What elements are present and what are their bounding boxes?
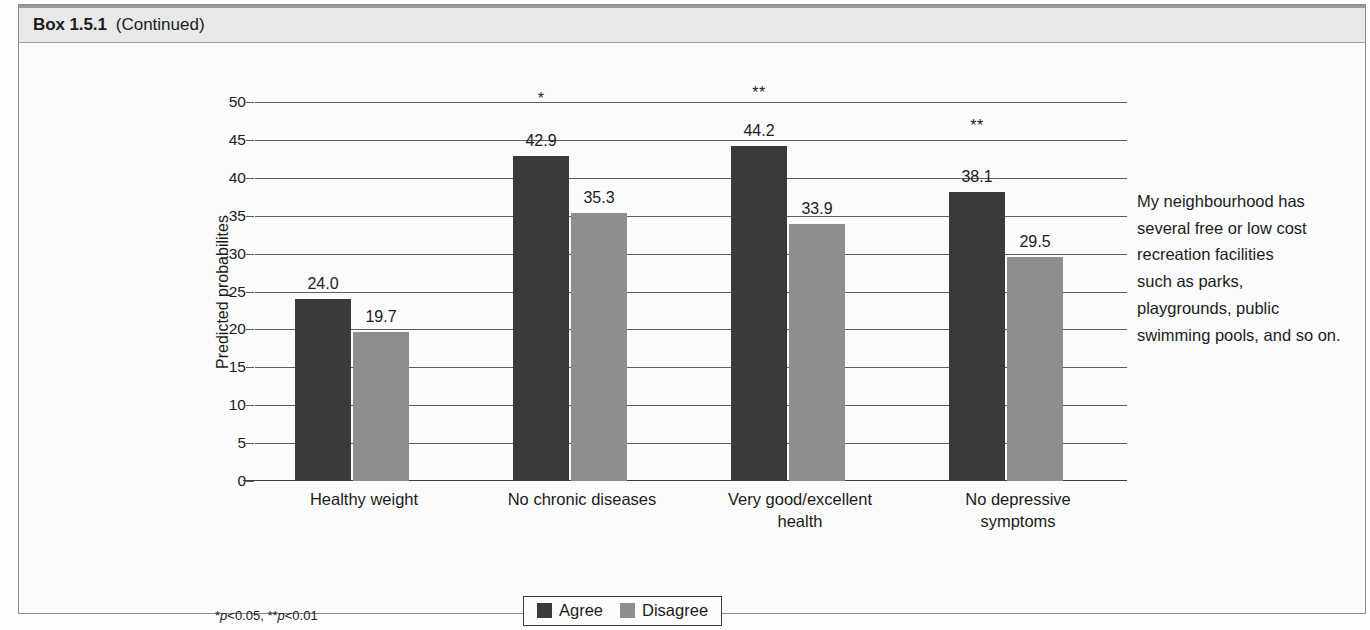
bar-value-label: 24.0 (307, 275, 338, 293)
category-label-line: No chronic diseases (473, 488, 691, 510)
annotation-line: several free or low cost (1137, 215, 1370, 242)
bar-chart-plot: 05101520253035404550 24.019.742.935.3*44… (255, 102, 1127, 481)
bar-value-label: 29.5 (1019, 233, 1050, 251)
box-header: Box 1.5.1 (Continued) (19, 5, 1365, 43)
legend-swatch-icon (537, 603, 552, 618)
bar-value-label: 33.9 (801, 200, 832, 218)
bar-value-label: 44.2 (743, 122, 774, 140)
category-label-line: No depressive (909, 488, 1127, 510)
chart-legend: AgreeDisagree (523, 596, 722, 626)
category-label: No chronic diseases (473, 488, 691, 510)
y-tick-mark (246, 102, 254, 103)
bar-agree-1 (295, 299, 351, 481)
legend-label: Disagree (642, 601, 708, 620)
y-tick-mark (246, 443, 254, 444)
y-tick-mark (246, 367, 254, 368)
chart-annotation: My neighbourhood hasseveral free or low … (1137, 188, 1370, 348)
significance-footnote: *p<0.05, **p<0.01 (215, 608, 318, 623)
bar-disagree-3 (789, 224, 845, 481)
y-tick-mark (246, 254, 254, 255)
annotation-line: such as parks, (1137, 268, 1370, 295)
annotation-line: recreation facilities (1137, 241, 1370, 268)
bar-agree-4 (949, 192, 1005, 481)
box-container: Box 1.5.1 (Continued) Predicted probabil… (18, 4, 1366, 614)
y-tick-label: 0 (237, 472, 246, 490)
category-label-line: symptoms (909, 510, 1127, 532)
footnote-p-2: p (278, 608, 285, 623)
annotation-line: My neighbourhood has (1137, 188, 1370, 215)
bar-disagree-2 (571, 213, 627, 481)
gridline (255, 178, 1127, 179)
bar-disagree-1 (353, 332, 409, 481)
bar-value-label: 35.3 (583, 189, 614, 207)
bar-value-label: 19.7 (365, 308, 396, 326)
bar-agree-2 (513, 156, 569, 481)
annotation-line: playgrounds, public (1137, 295, 1370, 322)
y-tick-label: 25 (229, 283, 246, 301)
gridline (255, 102, 1127, 103)
y-tick-mark (246, 405, 254, 406)
annotation-line: swimming pools, and so on. (1137, 322, 1370, 349)
category-label: Very good/excellenthealth (691, 488, 909, 533)
bar-value-label: 38.1 (961, 168, 992, 186)
y-tick-mark (246, 178, 254, 179)
significance-marker: * (538, 90, 545, 108)
footnote-value-2: <0.01 (285, 608, 318, 623)
bar-agree-3 (731, 146, 787, 481)
y-tick-mark (246, 216, 254, 217)
legend-swatch-icon (620, 603, 635, 618)
gridline (255, 140, 1127, 141)
y-tick-mark (246, 140, 254, 141)
category-label: No depressivesymptoms (909, 488, 1127, 533)
box-title: Box 1.5.1 (19, 15, 107, 35)
y-tick-label: 45 (229, 131, 246, 149)
category-label: Healthy weight (255, 488, 473, 510)
box-continued-label: (Continued) (107, 15, 205, 35)
footnote-star-2: ** (267, 608, 277, 623)
legend-label: Agree (559, 601, 603, 620)
significance-marker: ** (970, 117, 983, 135)
y-tick-label: 40 (229, 169, 246, 187)
significance-marker: ** (752, 84, 765, 102)
y-tick-mark (246, 329, 254, 330)
y-tick-mark (246, 481, 254, 482)
bar-disagree-4 (1007, 257, 1063, 481)
y-tick-label: 20 (229, 320, 246, 338)
y-tick-label: 10 (229, 396, 246, 414)
y-tick-label: 50 (229, 93, 246, 111)
category-label-line: Healthy weight (255, 488, 473, 510)
y-tick-label: 5 (237, 434, 246, 452)
chart-panel: Predicted probabilites 05101520253035404… (19, 43, 1365, 613)
legend-item-agree[interactable]: Agree (537, 601, 603, 620)
legend-item-disagree[interactable]: Disagree (620, 601, 708, 620)
category-label-line: Very good/excellent (691, 488, 909, 510)
footnote-value-1: <0.05, (227, 608, 267, 623)
y-tick-label: 15 (229, 358, 246, 376)
bar-value-label: 42.9 (525, 132, 556, 150)
y-tick-mark (246, 292, 254, 293)
y-tick-label: 35 (229, 207, 246, 225)
y-tick-label: 30 (229, 245, 246, 263)
category-label-line: health (691, 510, 909, 532)
